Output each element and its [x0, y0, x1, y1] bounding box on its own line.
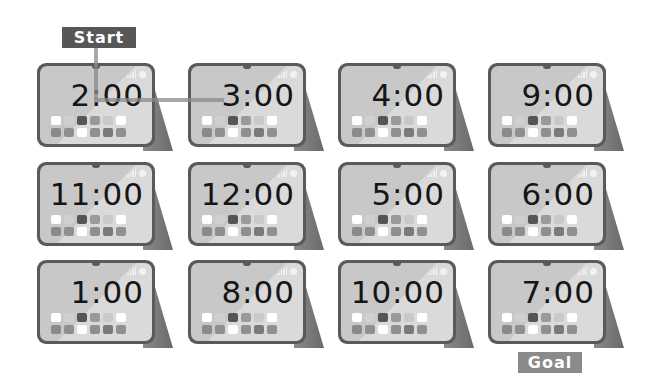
app-icon-grid — [352, 313, 427, 337]
clock-time: 6:00 — [491, 177, 603, 211]
camera-notch — [243, 165, 251, 168]
tablet-clock-12-00[interactable]: 12:00 — [188, 162, 324, 252]
app-icon-grid — [202, 116, 277, 140]
tablet-frame: 4:00 — [338, 63, 456, 147]
tablet-screen: 12:00 — [191, 165, 303, 243]
tablet-clock-1-00[interactable]: 1:00 — [37, 260, 173, 350]
clock-time: 4:00 — [341, 78, 453, 112]
tablet-screen: 4:00 — [341, 66, 453, 144]
app-icon-grid — [502, 313, 577, 337]
tablet-clock-9-00[interactable]: 9:00 — [488, 63, 624, 153]
goal-label: Goal — [518, 352, 582, 373]
tablet-screen: 11:00 — [40, 165, 152, 243]
tablet-clock-5-00[interactable]: 5:00 — [338, 162, 474, 252]
tablet-screen: 10:00 — [341, 263, 453, 341]
app-icon-grid — [352, 116, 427, 140]
app-icon-grid — [51, 116, 126, 140]
tablet-frame: 7:00 — [488, 260, 606, 344]
camera-notch — [92, 165, 100, 168]
camera-notch — [543, 165, 551, 168]
app-icon-grid — [352, 215, 427, 239]
camera-notch — [393, 263, 401, 266]
app-icon-grid — [202, 313, 277, 337]
tablet-screen: 3:00 — [191, 66, 303, 144]
clock-time: 9:00 — [491, 78, 603, 112]
clock-time: 8:00 — [191, 275, 303, 309]
tablet-frame: 6:00 — [488, 162, 606, 246]
clock-time: 1:00 — [40, 275, 152, 309]
path-segment-horizontal — [94, 98, 224, 102]
tablet-frame: 5:00 — [338, 162, 456, 246]
clock-time: 7:00 — [491, 275, 603, 309]
tablet-frame: 3:00 — [188, 63, 306, 147]
clock-time: 12:00 — [191, 177, 303, 211]
tablet-screen: 1:00 — [40, 263, 152, 341]
tablet-screen: 6:00 — [491, 165, 603, 243]
tablet-clock-7-00[interactable]: 7:00 — [488, 260, 624, 350]
app-icon-grid — [51, 313, 126, 337]
camera-notch — [543, 263, 551, 266]
tablet-clock-10-00[interactable]: 10:00 — [338, 260, 474, 350]
tablet-frame: 11:00 — [37, 162, 155, 246]
camera-notch — [393, 66, 401, 69]
clock-time: 11:00 — [40, 177, 152, 211]
tablet-screen: 9:00 — [491, 66, 603, 144]
app-icon-grid — [502, 215, 577, 239]
path-segment-vertical — [94, 48, 98, 100]
tablet-clock-3-00[interactable]: 3:00 — [188, 63, 324, 153]
tablet-clock-2-00[interactable]: 2:00 — [37, 63, 173, 153]
tablet-frame: 9:00 — [488, 63, 606, 147]
tablet-clock-11-00[interactable]: 11:00 — [37, 162, 173, 252]
tablet-clock-8-00[interactable]: 8:00 — [188, 260, 324, 350]
tablet-frame: 1:00 — [37, 260, 155, 344]
tablet-screen: 7:00 — [491, 263, 603, 341]
camera-notch — [243, 263, 251, 266]
camera-notch — [92, 263, 100, 266]
tablet-clock-6-00[interactable]: 6:00 — [488, 162, 624, 252]
camera-notch — [543, 66, 551, 69]
camera-notch — [393, 165, 401, 168]
app-icon-grid — [202, 215, 277, 239]
app-icon-grid — [51, 215, 126, 239]
tablet-screen: 8:00 — [191, 263, 303, 341]
clock-time: 5:00 — [341, 177, 453, 211]
tablet-frame: 10:00 — [338, 260, 456, 344]
clock-time: 3:00 — [191, 78, 303, 112]
tablet-frame: 12:00 — [188, 162, 306, 246]
tablet-clock-4-00[interactable]: 4:00 — [338, 63, 474, 153]
start-label: Start — [62, 27, 136, 48]
app-icon-grid — [502, 116, 577, 140]
tablet-frame: 8:00 — [188, 260, 306, 344]
clock-time: 10:00 — [341, 275, 453, 309]
camera-notch — [243, 66, 251, 69]
tablet-screen: 5:00 — [341, 165, 453, 243]
